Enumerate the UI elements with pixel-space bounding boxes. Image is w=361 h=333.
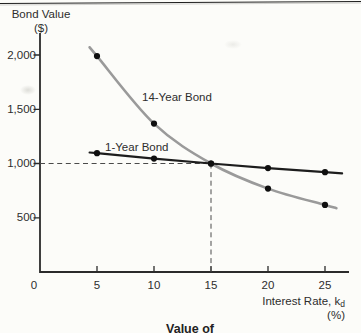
data-point-marker (265, 165, 271, 171)
y-tick-label-2000: 2,000 (0, 49, 36, 63)
data-point-marker (94, 150, 100, 156)
reference-dashed-lines (40, 164, 211, 273)
data-point-marker (208, 160, 214, 166)
x-tick-label-15: 15 (197, 279, 225, 293)
x-tick-label-10: 10 (140, 279, 168, 293)
x-axis-title-subscript: d (340, 299, 345, 309)
y-tick-label-500: 500 (0, 211, 36, 225)
figure-caption-partial: Value of (120, 322, 260, 333)
x-tick-label-25: 25 (311, 279, 339, 293)
x-tick-label-20: 20 (254, 279, 282, 293)
series-label-14-year-bond: 14-Year Bond (142, 91, 212, 105)
data-point-marker (151, 121, 157, 127)
x-tick-label-0: 0 (20, 279, 48, 293)
series-curve-1-year-bond (90, 153, 343, 174)
y-tick-label-1000: 1,000 (0, 157, 36, 171)
data-point-marker (265, 186, 271, 192)
series-label-1-year-bond: 1-Year Bond (105, 141, 169, 155)
x-axis-title-unit: (%) (262, 309, 345, 323)
data-point-marker (94, 53, 100, 59)
data-point-marker (151, 156, 157, 162)
data-point-marker (322, 169, 328, 175)
x-tick-label-5: 5 (83, 279, 111, 293)
series-curve-14-year-bond (90, 47, 337, 208)
data-point-marker (322, 202, 328, 208)
x-axis-title-line1: Interest Rate, kd (262, 295, 345, 309)
x-axis-title: Interest Rate, kd (%) (262, 295, 345, 323)
y-tick-label-1500: 1,500 (0, 103, 36, 117)
x-axis-title-main: Interest Rate, k (262, 295, 340, 307)
